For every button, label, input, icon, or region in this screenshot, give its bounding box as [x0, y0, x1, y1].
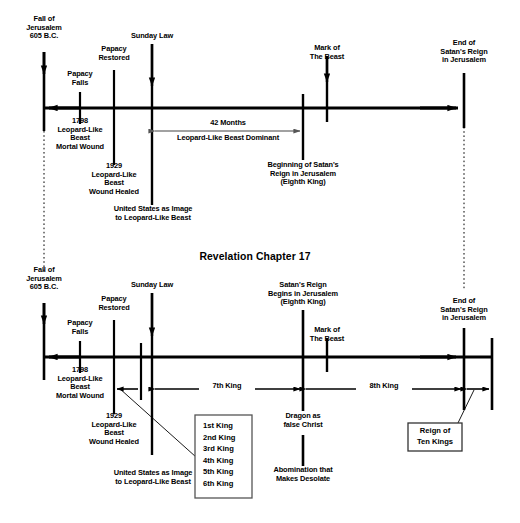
upper-label-fall-of-jerusalem: Fall of Jerusalem 605 B.C. [4, 15, 84, 41]
upper-span-label-42-months: 42 Months [188, 119, 268, 128]
upper-span-label-beast-dominant: Leopard-Like Beast Dominant [160, 134, 296, 143]
lower-label-satans-reign-begins: Satan's Reign Begins in Jerusalem (Eight… [248, 281, 358, 307]
upper-label-end-of-satans-reign: End of Satan's Reign in Jerusalem [424, 39, 504, 65]
lower-label-mark-of-the-beast: Mark of The Beast [291, 326, 363, 343]
lower-label-sunday-law: Sunday Law [112, 281, 192, 290]
upper-label-wound-healed: 1929 Leopard-Like Beast Wound Healed [76, 162, 152, 196]
kings-list-box-text: 1st King 2nd King 3rd King 4th King 5th … [203, 420, 253, 490]
lower-span-label-seventh-king: 7th King [199, 382, 255, 391]
page-title: Revelation Chapter 17 [180, 251, 330, 262]
lower-label-papacy-falls: Papacy Falls [48, 319, 112, 336]
lower-label-abomination: Abomination that Makes Desolate [250, 466, 356, 483]
upper-label-beginning-satans-reign: Beginning of Satan's Reign in Jerusalem … [248, 161, 358, 187]
lower-label-end-of-satans-reign: End of Satan's Reign in Jerusalem [424, 297, 504, 323]
upper-label-mortal-wound: 1798 Leopard-Like Beast Mortal Wound [42, 117, 118, 151]
leader-line-ten-kings-box [457, 390, 474, 425]
upper-label-papacy-restored: Papacy Restored [82, 45, 146, 62]
lower-label-mortal-wound: 1798 Leopard-Like Beast Mortal Wound [42, 366, 118, 400]
upper-label-sunday-law: Sunday Law [112, 32, 192, 41]
lower-label-dragon-false-christ: Dragon as false Christ [262, 412, 344, 429]
upper-label-united-states: United States as Image to Leopard-Like B… [96, 205, 210, 222]
upper-label-mark-of-the-beast: Mark of The Beast [291, 44, 363, 61]
lower-span-label-eighth-king: 8th King [356, 382, 412, 391]
lower-label-fall-of-jerusalem: Fall of Jerusalem 605 B.C. [4, 266, 84, 292]
lower-label-united-states: United States as Image to Leopard-Like B… [96, 469, 210, 486]
ten-kings-box-text: Reign of Ten Kings [410, 425, 460, 447]
lower-label-papacy-restored: Papacy Restored [82, 295, 146, 312]
lower-label-wound-healed: 1929 Leopard-Like Beast Wound Healed [76, 412, 152, 446]
upper-label-papacy-falls: Papacy Falls [48, 70, 112, 87]
